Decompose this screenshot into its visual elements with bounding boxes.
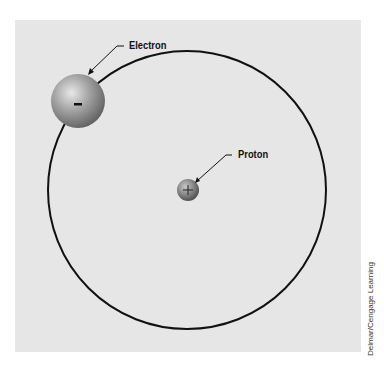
proton-label: Proton bbox=[238, 148, 268, 160]
electron-leader-line bbox=[88, 46, 124, 75]
negative-charge-icon bbox=[74, 103, 82, 106]
electron bbox=[51, 74, 105, 128]
image-credit: Delmar/Cengage Learning bbox=[366, 262, 375, 356]
atom-diagram bbox=[0, 0, 384, 365]
proton-leader-line bbox=[195, 155, 232, 183]
electron-label: Electron bbox=[129, 39, 166, 51]
